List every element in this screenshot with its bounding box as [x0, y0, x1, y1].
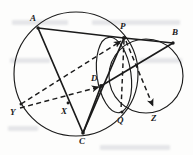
- point-label-A: A: [30, 14, 36, 23]
- geometry-figure: A P B D Y X Q Z C: [0, 0, 193, 155]
- vertex-dot-A: [36, 26, 39, 29]
- point-label-D: D: [91, 74, 98, 83]
- point-label-P: P: [120, 22, 126, 31]
- vertex-dot-X: [67, 102, 70, 105]
- vertex-dot-B: [171, 41, 174, 44]
- segment-P-Q-dashed: [121, 40, 124, 110]
- point-label-Z: Z: [151, 114, 157, 123]
- vertex-dot-D: [99, 84, 103, 88]
- point-label-X: X: [61, 107, 67, 116]
- segment-A-P: [38, 28, 124, 38]
- vertex-dot-C: [81, 131, 85, 135]
- point-label-Q: Q: [117, 116, 124, 125]
- vertex-dot-P: [122, 36, 126, 40]
- vertex-dot-Y: [20, 103, 23, 106]
- vertex-dot-Q: [121, 111, 124, 114]
- point-label-C: C: [79, 137, 85, 146]
- point-label-B: B: [172, 28, 178, 37]
- segment-C-D: [83, 86, 101, 133]
- circle-pdq: [92, 35, 136, 115]
- segment-A-C: [38, 28, 83, 133]
- point-label-Y: Y: [10, 108, 16, 117]
- circle-pbz: [109, 39, 183, 113]
